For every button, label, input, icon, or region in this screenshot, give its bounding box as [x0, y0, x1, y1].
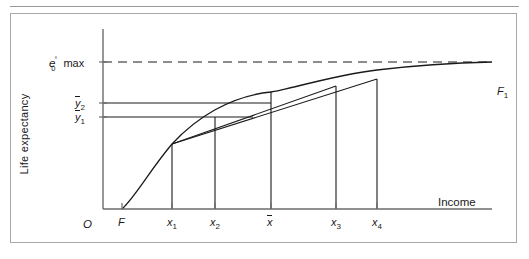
- x-tick-label-xbar: x: [267, 216, 273, 228]
- plot-canvas: [0, 0, 529, 259]
- figure-container: Life expectancy Income e°0 max y2 y1 O F…: [0, 0, 529, 259]
- y-axis-title: Life expectancy: [18, 74, 30, 194]
- f1-symbol: F: [497, 85, 504, 97]
- x-axis-title: Income: [438, 196, 476, 208]
- f1-subscript: 1: [504, 91, 508, 100]
- x-tick-label-x1: x1: [167, 216, 177, 231]
- emax-subscript: 0: [51, 64, 55, 73]
- ybar2-symbol: y: [75, 97, 81, 109]
- ybar1-subscript: 1: [81, 117, 85, 126]
- x-tick-label-F: F: [118, 216, 125, 228]
- emax-word: max: [63, 57, 84, 69]
- curve-label-f1: F1: [497, 85, 508, 100]
- xtick-xbar-symbol: x: [267, 216, 273, 228]
- xtick-x4-subscript: 4: [378, 222, 382, 231]
- ybar1-symbol: y: [75, 111, 81, 123]
- y-marker-label-ybar1: y1: [75, 111, 85, 126]
- x-tick-label-x3: x3: [331, 216, 341, 231]
- curve-f1: [122, 62, 492, 209]
- y-marker-label-emax: e°0 max: [49, 56, 84, 72]
- origin-label: O: [83, 218, 92, 230]
- emax-superscript: °: [54, 56, 57, 63]
- x-tick-label-x4: x4: [372, 216, 382, 231]
- xtick-x3-subscript: 3: [337, 222, 341, 231]
- x-tick-label-x2: x2: [210, 216, 220, 231]
- xtick-x1-subscript: 1: [173, 222, 177, 231]
- chord-x1-to-x4: [172, 79, 377, 144]
- xtick-x2-subscript: 2: [216, 222, 220, 231]
- xtick-F-symbol: F: [118, 216, 125, 228]
